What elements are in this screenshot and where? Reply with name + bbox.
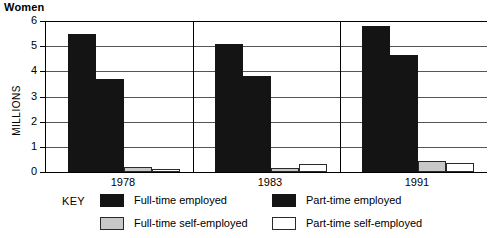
black-swatch [272,194,296,207]
legend-key-label: KEY [62,195,85,207]
black-swatch [100,194,124,207]
bar-part-time-self-employed-1983 [299,164,327,172]
gridline [46,21,487,22]
y-axis-tick [40,46,46,47]
white-swatch [272,217,296,230]
legend-label: Full-time self-employed [134,217,248,229]
x-axis-tick-label-1983: 1983 [240,176,300,188]
chart-title: Women [4,1,45,13]
legend-label: Full-time employed [134,194,227,206]
y-axis-tick-label: 3 [31,91,37,102]
legend-label: Part-time employed [306,194,401,206]
bar-full-time-employed-1991 [362,26,390,172]
bar-part-time-employed-1991 [390,55,418,172]
y-axis-tick-label: 0 [31,166,37,177]
chart-legend: KEY Full-time employedPart-time employed… [0,193,489,238]
y-axis-tick-label: 6 [31,15,37,26]
bar-full-time-self-employed-1991 [418,161,446,172]
y-axis-tick [40,147,46,148]
y-axis-tick [40,97,46,98]
bar-full-time-self-employed-1983 [271,168,299,172]
y-axis-tick-label: 5 [31,40,37,51]
group-separator [193,21,194,172]
legend-label: Part-time self-employed [306,217,422,229]
bar-full-time-employed-1978 [68,34,96,172]
x-axis-tick-label-1991: 1991 [387,176,447,188]
y-axis-tick-label: 2 [31,116,37,127]
gray-swatch [100,217,124,230]
y-axis-tick [40,172,46,173]
bar-part-time-self-employed-1978 [152,169,180,172]
bar-part-time-employed-1983 [243,76,271,172]
group-separator [340,21,341,172]
y-axis-label: MILLIONS [11,63,22,159]
gridline [46,46,487,47]
y-axis-tick [40,21,46,22]
chart-container: Women MILLIONS 0123456 197819831991 KEY … [0,0,489,238]
y-axis-tick [40,122,46,123]
x-axis-tick-label-1978: 1978 [93,176,153,188]
bar-part-time-employed-1978 [96,79,124,172]
gridline [46,71,487,72]
plot-area: 0123456 [45,21,487,173]
bar-full-time-employed-1983 [215,44,243,172]
y-axis-tick [40,71,46,72]
bar-full-time-self-employed-1978 [124,167,152,172]
bar-part-time-self-employed-1991 [446,163,474,172]
y-axis-tick-label: 1 [31,141,37,152]
y-axis-tick-label: 4 [31,65,37,76]
